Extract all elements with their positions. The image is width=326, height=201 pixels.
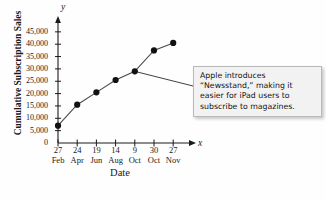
callout-line-2: “Newsstand,” making it (200, 81, 293, 90)
data-point-marker (170, 40, 176, 46)
callout-line-1: Apple introduces (200, 71, 266, 80)
data-point-marker (93, 89, 99, 95)
x-axis-arrowhead (189, 140, 196, 146)
data-point-marker (55, 123, 61, 129)
x-tick-label: 27Nov (160, 146, 186, 165)
chart-figure: Cumulative Subscription Sales y x Date 0… (0, 0, 326, 201)
x-tick-month: Nov (160, 156, 186, 165)
data-point-marker (113, 77, 119, 83)
y-axis-arrowhead (55, 16, 61, 23)
data-point-marker (132, 68, 138, 74)
data-series-line (58, 43, 173, 126)
data-point-markers (55, 40, 176, 129)
annotation-callout: Apple introduces “Newsstand,” making it … (193, 66, 322, 117)
callout-line-3: easier for iPad users to (200, 91, 290, 100)
data-point-marker (74, 102, 80, 108)
data-point-marker (151, 47, 157, 53)
annotation-leader-line (135, 71, 193, 86)
axes (55, 16, 196, 146)
callout-line-4: subscribe to magazines. (200, 102, 295, 111)
x-tick-day: 27 (160, 146, 186, 155)
